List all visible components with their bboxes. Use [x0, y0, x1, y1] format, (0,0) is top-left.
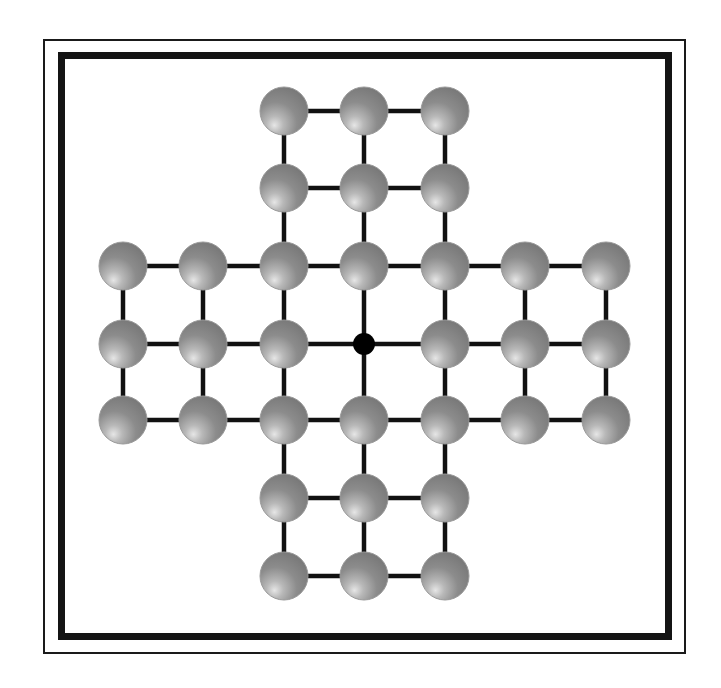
peg-ball-icon — [260, 474, 308, 522]
peg-ball-icon — [340, 242, 388, 290]
peg-ball-icon — [99, 320, 147, 368]
peg-ball-icon — [260, 396, 308, 444]
peg-ball-icon — [260, 320, 308, 368]
peg-ball-icon — [340, 164, 388, 212]
peg-r2-c1[interactable] — [179, 242, 227, 290]
peg-r1-c3[interactable] — [340, 164, 388, 212]
peg-r2-c0[interactable] — [99, 242, 147, 290]
peg-r2-c5[interactable] — [501, 242, 549, 290]
peg-r3-c6[interactable] — [582, 320, 630, 368]
peg-ball-icon — [260, 164, 308, 212]
peg-r3-c0[interactable] — [99, 320, 147, 368]
peg-ball-icon — [421, 164, 469, 212]
peg-ball-icon — [501, 396, 549, 444]
peg-r1-c4[interactable] — [421, 164, 469, 212]
peg-ball-icon — [340, 474, 388, 522]
peg-r2-c6[interactable] — [582, 242, 630, 290]
peg-ball-icon — [99, 396, 147, 444]
peg-ball-icon — [582, 320, 630, 368]
peg-ball-icon — [99, 242, 147, 290]
peg-r0-c2[interactable] — [260, 87, 308, 135]
peg-r3-c2[interactable] — [260, 320, 308, 368]
peg-ball-icon — [582, 396, 630, 444]
peg-r5-c2[interactable] — [260, 474, 308, 522]
peg-ball-icon — [421, 87, 469, 135]
peg-r0-c3[interactable] — [340, 87, 388, 135]
peg-ball-icon — [501, 320, 549, 368]
peg-r4-c5[interactable] — [501, 396, 549, 444]
peg-r0-c4[interactable] — [421, 87, 469, 135]
peg-r3-c4[interactable] — [421, 320, 469, 368]
peg-ball-icon — [340, 552, 388, 600]
peg-ball-icon — [340, 87, 388, 135]
peg-r4-c6[interactable] — [582, 396, 630, 444]
peg-r2-c2[interactable] — [260, 242, 308, 290]
peg-ball-icon — [421, 552, 469, 600]
peg-r4-c1[interactable] — [179, 396, 227, 444]
peg-r3-c5[interactable] — [501, 320, 549, 368]
peg-r6-c4[interactable] — [421, 552, 469, 600]
peg-ball-icon — [260, 552, 308, 600]
peg-r5-c4[interactable] — [421, 474, 469, 522]
peg-ball-icon — [260, 242, 308, 290]
peg-r4-c3[interactable] — [340, 396, 388, 444]
peg-r5-c3[interactable] — [340, 474, 388, 522]
peg-ball-icon — [179, 242, 227, 290]
peg-r4-c4[interactable] — [421, 396, 469, 444]
peg-r3-c1[interactable] — [179, 320, 227, 368]
peg-ball-icon — [179, 396, 227, 444]
peg-ball-icon — [421, 320, 469, 368]
peg-ball-icon — [260, 87, 308, 135]
peg-ball-icon — [421, 474, 469, 522]
peg-r4-c2[interactable] — [260, 396, 308, 444]
peg-ball-icon — [179, 320, 227, 368]
peg-ball-icon — [501, 242, 549, 290]
empty-hole-r3-c3[interactable] — [353, 333, 375, 355]
peg-r2-c4[interactable] — [421, 242, 469, 290]
peg-ball-icon — [340, 396, 388, 444]
peg-ball-icon — [421, 396, 469, 444]
peg-r4-c0[interactable] — [99, 396, 147, 444]
peg-r6-c3[interactable] — [340, 552, 388, 600]
peg-r2-c3[interactable] — [340, 242, 388, 290]
peg-ball-icon — [421, 242, 469, 290]
peg-r6-c2[interactable] — [260, 552, 308, 600]
peg-r1-c2[interactable] — [260, 164, 308, 212]
peg-ball-icon — [582, 242, 630, 290]
peg-solitaire-board — [0, 0, 721, 688]
